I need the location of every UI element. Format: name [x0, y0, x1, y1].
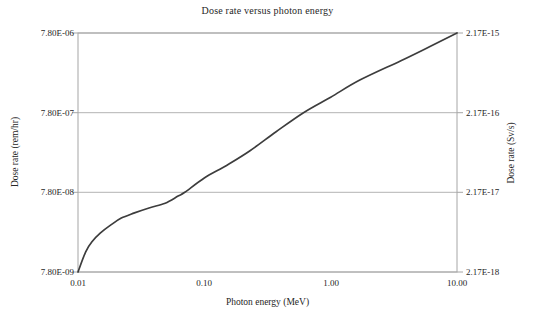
y-tick-label-right: 2.17E-16 — [466, 107, 536, 119]
y-tick-label-left: 7.80E-08 — [0, 186, 74, 198]
x-axis-title: Photon energy (MeV) — [78, 297, 457, 307]
x-tick-label: 0.10 — [179, 277, 229, 289]
y-axis-title-right: Dose rate (Sv/s) — [506, 122, 516, 183]
x-tick-label: 1.00 — [306, 277, 356, 289]
y-tick-label-right: 2.17E-17 — [466, 186, 536, 198]
x-tick-label: 10.00 — [432, 277, 482, 289]
y-tick-label-left: 7.80E-07 — [0, 107, 74, 119]
dose-rate-chart: Dose rate versus photon energy Dose rate… — [0, 0, 537, 328]
y-tick-label-left: 7.80E-06 — [0, 27, 74, 39]
dose-rate-curve — [78, 33, 457, 272]
chart-title: Dose rate versus photon energy — [78, 5, 457, 16]
y-tick-label-right: 2.17E-15 — [466, 27, 536, 39]
plot-border — [78, 33, 457, 272]
x-tick-label: 0.01 — [53, 277, 103, 289]
y-axis-title-left: Dose rate (rem/hr) — [10, 117, 20, 187]
